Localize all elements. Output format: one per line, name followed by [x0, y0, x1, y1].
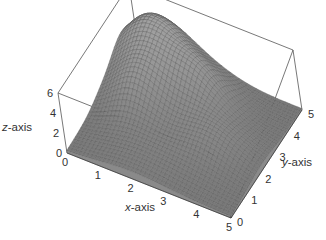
- y-tick-label: 4: [294, 130, 300, 142]
- z-tick-label: 4: [50, 107, 56, 119]
- y-axis-label: y-axis: [281, 156, 312, 168]
- surface-plot: 0123450123450246 z-axis x-axis y-axis: [0, 0, 326, 240]
- box-edge-right-vertical: [293, 50, 302, 110]
- z-tick-label: 6: [47, 87, 53, 99]
- surface-mesh: [67, 13, 302, 218]
- x-tick-label: 2: [128, 182, 134, 194]
- y-tick-label: 0: [237, 216, 243, 228]
- box-edge-front-left-vertical: [58, 93, 67, 153]
- z-tick-label: 0: [56, 147, 62, 159]
- x-tick-label: 0: [62, 156, 68, 168]
- z-tick-label: 2: [53, 127, 59, 139]
- y-tick-label: 2: [265, 173, 271, 185]
- x-tick-label: 5: [226, 221, 232, 233]
- x-tick-label: 4: [193, 208, 199, 220]
- y-tick-label: 1: [251, 194, 257, 206]
- x-tick-label: 3: [160, 195, 166, 207]
- x-tick-label: 1: [95, 169, 101, 181]
- y-tick-label: 5: [308, 108, 314, 120]
- x-axis-label: x-axis: [124, 201, 155, 213]
- z-axis-label: z-axis: [1, 121, 32, 133]
